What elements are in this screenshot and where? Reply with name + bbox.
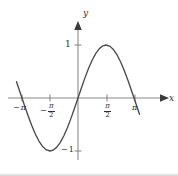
denominator-two: 2	[48, 112, 54, 119]
x-axis-label: x	[169, 94, 174, 103]
pi-glyph: π	[48, 103, 55, 110]
minus-sign-glyph: −	[40, 107, 47, 115]
plot-canvas	[0, 0, 178, 176]
x-axis-arrowhead	[160, 94, 169, 102]
y-tick-one-glyph: 1	[69, 146, 74, 154]
x-tick-label-pi-over-2: π 2	[104, 103, 111, 119]
y-axis-arrowhead	[74, 21, 82, 30]
x-tick-label-minus-pi-over-2: − π 2	[40, 103, 55, 119]
pi-glyph: π	[104, 103, 111, 110]
x-tick-label-pi: π	[132, 104, 137, 112]
sine-curve-figure: y x 1 − 1 − π − π 2 π 2 π	[0, 0, 178, 176]
minus-sign-glyph: −	[61, 146, 68, 154]
x-tick-label-minus-pi: − π	[13, 104, 26, 112]
minus-sign-glyph: −	[13, 104, 20, 112]
y-axis-label: y	[83, 9, 88, 18]
y-tick-label-minus-one: − 1	[61, 146, 74, 154]
pi-glyph: π	[21, 104, 26, 112]
y-tick-label-one: 1	[65, 40, 71, 49]
denominator-two: 2	[104, 112, 110, 119]
fraction-pi-over-2: π 2	[48, 103, 55, 119]
figure-bottom-edge	[0, 173, 178, 176]
